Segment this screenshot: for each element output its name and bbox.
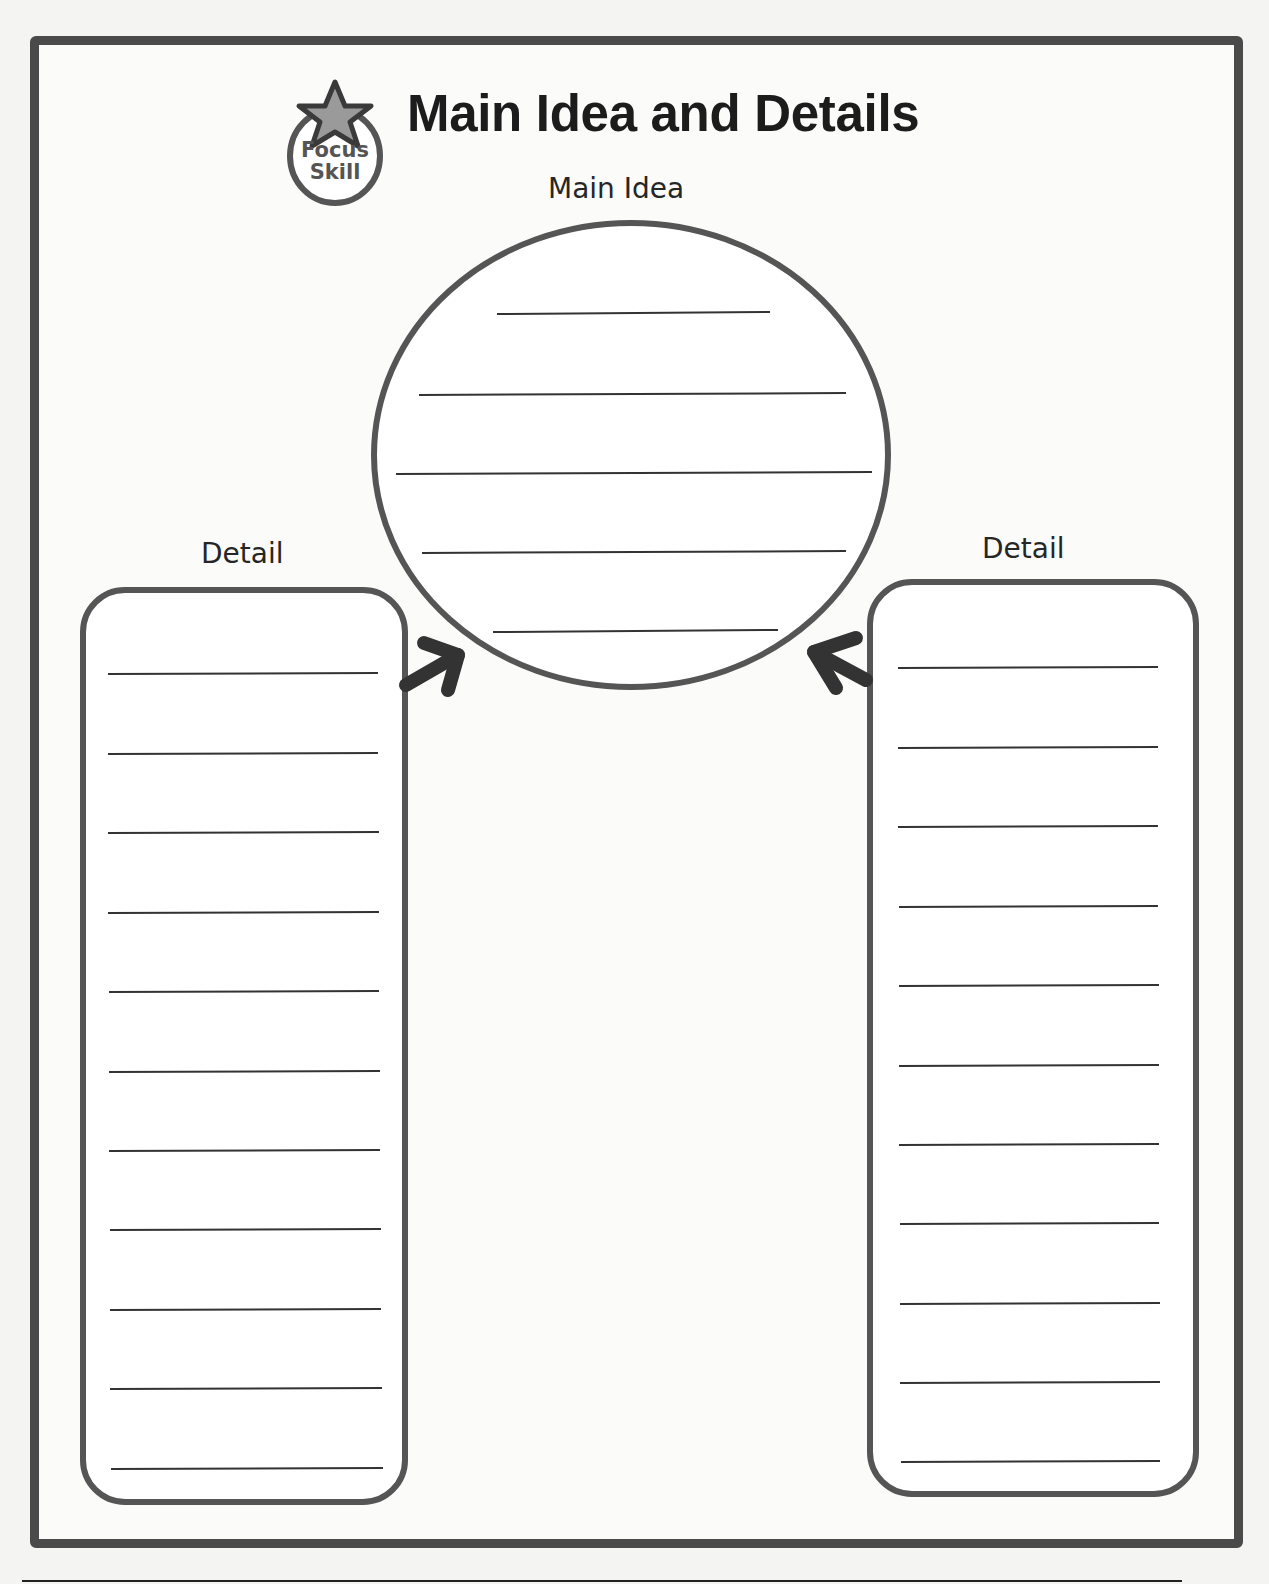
organizer-graphics: [0, 0, 1269, 1584]
right-detail-box[interactable]: [870, 582, 1196, 1494]
arrow-up-left-icon: [814, 638, 866, 688]
left-detail-box[interactable]: [83, 590, 405, 1502]
arrow-up-right-icon: [406, 643, 458, 690]
bottom-rule: [22, 1580, 1182, 1582]
main-idea-circle[interactable]: [374, 223, 888, 687]
